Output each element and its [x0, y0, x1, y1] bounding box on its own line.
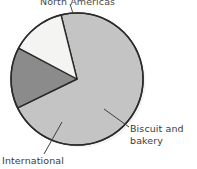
slice-label-biscuit-bakery: Biscuit andbakery: [130, 123, 184, 146]
pie-chart-figure: North Americas Biscuit andbakery Interna…: [0, 0, 197, 169]
slice-label-north-americas: North Americas: [40, 0, 115, 8]
slice-label-international: International: [2, 155, 64, 167]
slice-label-biscuit-bakery-line1: Biscuit and: [130, 123, 184, 134]
slice-label-biscuit-bakery-line2: bakery: [130, 135, 163, 146]
